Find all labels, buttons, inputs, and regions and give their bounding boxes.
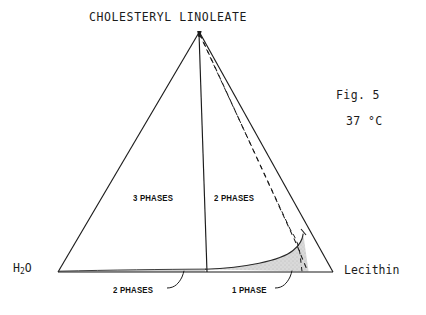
leader-line-one-phase (275, 271, 292, 288)
single-phase-shaded-region (205, 234, 309, 272)
region-label-one-phase-bottom: 1 PHASE (232, 286, 267, 295)
temperature-label: 37 °C (346, 116, 383, 128)
ternary-triangle-outline (58, 33, 333, 273)
water-prefix: H (13, 261, 20, 275)
vertex-label-water: H2O (13, 263, 32, 276)
water-suffix: O (25, 261, 32, 275)
solid-internal-boundary (199, 33, 207, 272)
region-label-two-phases-interior: 2 PHASES (214, 194, 254, 203)
region-label-three-phases: 3 PHASES (133, 194, 173, 203)
region-label-two-phases-bottom: 2 PHASES (113, 286, 153, 295)
figure-number-label: Fig. 5 (336, 90, 380, 102)
leader-line-two-phases (167, 271, 184, 288)
phase-diagram-figure: CHOLESTERYL LINOLEATE H2O Lecithin Fig. … (0, 0, 426, 315)
vertex-label-lecithin: Lecithin (344, 265, 399, 277)
page-title: CHOLESTERYL LINOLEATE (89, 12, 247, 24)
dashed-phase-boundary-inner (199, 34, 302, 272)
dashed-phase-boundary-outer (200, 34, 308, 272)
